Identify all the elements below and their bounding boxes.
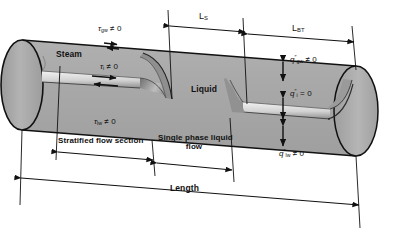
label-tau-lw: τlw ≠ 0: [94, 118, 116, 127]
dimension-line-singlephase: [157, 163, 232, 170]
pipe-schematic-drawing: [0, 0, 404, 244]
dimension-line-lbt: [248, 34, 354, 42]
pipe-left-endcap: [1, 40, 43, 130]
tau-i-relation: ≠ 0: [107, 62, 118, 71]
tau-gw-subscript: gw: [101, 27, 108, 33]
label-liquid: Liquid: [191, 85, 217, 95]
label-steam: Steam: [56, 50, 82, 60]
tau-lw-subscript: lw: [97, 120, 102, 126]
label-q-lw: q″lw ≠ 0: [279, 148, 304, 159]
single-phase-line1: Single phase liquid: [158, 133, 233, 142]
lbt-subscript: BT: [297, 27, 304, 33]
label-tau-gw: τgw ≠ 0: [98, 25, 121, 34]
q-lw-subscript: lw: [286, 152, 291, 158]
q-lw-relation: ≠ 0: [293, 149, 304, 158]
q-gw-subscript: gw: [297, 58, 304, 64]
figure-canvas: τgw ≠ 0 Steam τi ≠ 0 Liquid τlw ≠ 0 q″gw…: [0, 0, 404, 244]
label-q-gw: q″gw ≠ 0: [290, 54, 317, 65]
label-ls: LS: [199, 11, 208, 22]
q-i-relation: = 0: [300, 89, 312, 98]
label-tau-i: τi ≠ 0: [100, 63, 118, 72]
q-gw-relation: ≠ 0: [306, 55, 317, 64]
label-lbt: LBT: [292, 23, 305, 34]
dimension-line-stratified: [58, 152, 153, 160]
ls-subscript: S: [204, 15, 208, 21]
tau-i-subscript: i: [103, 65, 104, 71]
single-phase-line2: flow: [186, 142, 202, 151]
tau-gw-relation: ≠ 0: [110, 24, 121, 33]
q-i-subscript: i: [297, 92, 298, 98]
dimension-line-ls: [170, 26, 245, 32]
tau-lw-relation: ≠ 0: [104, 117, 115, 126]
label-single-phase-liquid-flow: Single phase liquid flow: [158, 134, 230, 152]
label-stratified-flow-section: Stratified flow section: [58, 137, 143, 146]
label-q-i: q″i = 0: [290, 88, 312, 99]
label-length: Length: [170, 184, 199, 194]
